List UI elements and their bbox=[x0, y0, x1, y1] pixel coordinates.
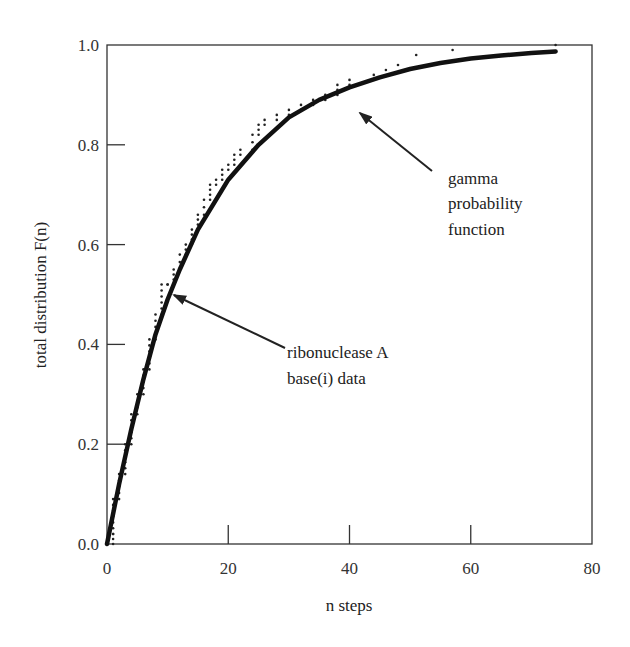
data-point bbox=[185, 243, 188, 246]
data-point bbox=[112, 538, 115, 541]
data-point bbox=[397, 64, 400, 67]
annotation-arrow-gamma bbox=[360, 113, 432, 171]
x-tick-label: 60 bbox=[462, 559, 479, 578]
annotation-ribonuclease: ribonuclease A base(i) data bbox=[287, 343, 392, 388]
y-tick-label: 0.8 bbox=[78, 136, 99, 155]
data-point bbox=[221, 178, 224, 181]
data-point bbox=[179, 253, 182, 256]
data-point bbox=[197, 218, 200, 221]
data-point bbox=[276, 114, 279, 117]
data-point bbox=[154, 313, 157, 316]
x-axis-label: n steps bbox=[326, 596, 373, 615]
data-point bbox=[451, 49, 454, 52]
data-point bbox=[154, 319, 157, 322]
chart: 0.00.20.40.60.81.0 020406080 gamma proba… bbox=[0, 0, 630, 647]
data-point bbox=[239, 154, 242, 157]
y-tick-label: 1.0 bbox=[78, 36, 99, 55]
data-point bbox=[197, 213, 200, 216]
y-axis-ticks: 0.00.20.40.60.81.0 bbox=[78, 36, 125, 554]
data-point bbox=[227, 169, 230, 172]
data-point bbox=[221, 173, 224, 176]
plot-frame bbox=[107, 45, 592, 544]
data-point bbox=[221, 169, 224, 172]
data-points-ribonuclease bbox=[112, 44, 557, 546]
data-point bbox=[385, 69, 388, 72]
data-point bbox=[172, 273, 175, 276]
x-tick-label: 80 bbox=[584, 559, 601, 578]
x-tick-label: 20 bbox=[220, 559, 237, 578]
data-point bbox=[257, 124, 260, 127]
data-point bbox=[166, 283, 169, 286]
data-point bbox=[336, 84, 339, 87]
data-point bbox=[130, 413, 133, 416]
data-point bbox=[124, 473, 127, 476]
data-point bbox=[160, 283, 163, 286]
data-point bbox=[257, 129, 260, 132]
data-point bbox=[239, 149, 242, 152]
data-point bbox=[160, 295, 163, 298]
data-point bbox=[160, 289, 163, 292]
data-point bbox=[209, 198, 212, 201]
y-tick-label: 0.4 bbox=[78, 335, 100, 354]
data-point bbox=[209, 188, 212, 191]
x-tick-label: 0 bbox=[103, 559, 112, 578]
data-point bbox=[203, 198, 206, 201]
y-tick-label: 0.2 bbox=[78, 435, 99, 454]
data-point bbox=[191, 228, 194, 231]
data-point bbox=[251, 141, 254, 144]
data-point bbox=[276, 119, 279, 122]
data-point bbox=[233, 154, 236, 157]
data-point bbox=[215, 183, 218, 186]
y-axis-label: total distribution F(n) bbox=[31, 222, 50, 368]
data-point bbox=[112, 543, 115, 546]
data-point bbox=[251, 134, 254, 137]
data-point bbox=[348, 79, 351, 82]
data-point bbox=[112, 533, 115, 536]
gamma-curve bbox=[107, 52, 556, 545]
y-tick-label: 0.0 bbox=[78, 535, 99, 554]
x-tick-label: 40 bbox=[341, 559, 358, 578]
data-point bbox=[215, 178, 218, 181]
data-point bbox=[209, 183, 212, 186]
data-point bbox=[263, 119, 266, 122]
data-point bbox=[142, 393, 145, 396]
data-point bbox=[288, 109, 291, 112]
data-point bbox=[148, 338, 151, 341]
data-point bbox=[203, 206, 206, 209]
annotation-arrow-ribonuclease bbox=[174, 295, 285, 348]
data-point bbox=[209, 193, 212, 196]
data-point bbox=[233, 164, 236, 167]
data-point bbox=[373, 74, 376, 77]
data-point bbox=[415, 54, 418, 57]
data-point bbox=[263, 124, 266, 127]
x-axis-ticks: 020406080 bbox=[103, 525, 601, 578]
annotation-gamma: gamma probability function bbox=[448, 169, 527, 239]
data-point bbox=[227, 164, 230, 167]
data-point bbox=[172, 268, 175, 271]
data-point bbox=[257, 134, 260, 137]
data-point bbox=[233, 159, 236, 162]
y-tick-label: 0.6 bbox=[78, 236, 99, 255]
data-point bbox=[554, 44, 557, 47]
data-point bbox=[300, 104, 303, 107]
data-point bbox=[160, 301, 163, 304]
